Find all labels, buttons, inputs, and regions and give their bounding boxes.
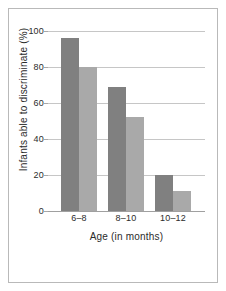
bar-8-10-series-2	[126, 117, 144, 211]
bar-10-12-series-1	[155, 175, 173, 211]
bar-6-8-series-1	[61, 38, 79, 211]
bar-8-10-series-1	[108, 87, 126, 211]
y-axis-title: Infants able to discriminate (%)	[18, 15, 29, 185]
x-axis-title: Age (in months)	[48, 231, 205, 242]
figure-container: 100 80 60 40 20 0 6–8 8–10 10–12	[0, 0, 226, 291]
bar-10-12-series-2	[173, 191, 191, 211]
plot-area	[48, 31, 205, 211]
x-axis-baseline	[48, 211, 205, 212]
gridline-100	[48, 31, 205, 32]
bar-6-8-series-2	[79, 67, 97, 211]
x-axis-tick-labels: 6–8 8–10 10–12	[48, 214, 205, 228]
y-tick-label: 0	[4, 207, 44, 216]
x-tick-label-2: 10–12	[143, 214, 203, 223]
